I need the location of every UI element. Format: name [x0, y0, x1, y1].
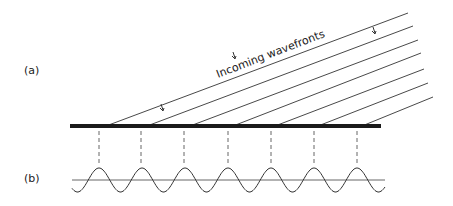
label-b: (b)	[24, 172, 40, 185]
surface-bar	[70, 124, 381, 128]
wavefront-line	[106, 13, 408, 126]
wavefront-line	[190, 40, 418, 126]
projection-dashes	[99, 131, 357, 166]
wavefront-diagram: (a) (b) Incoming wavefronts	[0, 0, 453, 206]
direction-arrows	[160, 27, 376, 111]
arrow-icon	[372, 27, 376, 34]
wavefront-line	[318, 83, 428, 126]
wavefront-line	[362, 97, 433, 126]
wavefront-lines	[106, 13, 433, 126]
incoming-wavefronts-label: Incoming wavefronts	[214, 27, 326, 80]
arrow-icon	[232, 52, 236, 59]
label-a: (a)	[24, 64, 39, 77]
wavefront-line	[147, 26, 413, 126]
wavefront-line	[275, 69, 424, 126]
